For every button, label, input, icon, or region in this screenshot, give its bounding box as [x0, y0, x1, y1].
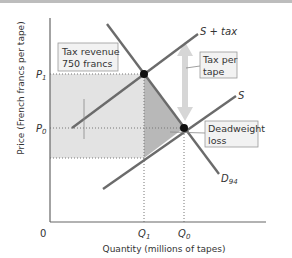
supply-tax-label: S + tax — [200, 26, 237, 37]
tax-revenue-line1: Tax revenue — [61, 46, 120, 57]
tax-revenue-area — [50, 74, 144, 158]
tax-per-tape-arrow — [177, 42, 193, 121]
origin-label: 0 — [40, 228, 46, 239]
y-axis-label: Price (French francs per tape) — [16, 21, 26, 154]
supply-label: S — [238, 90, 245, 101]
taxed-equilibrium-point — [140, 70, 148, 78]
p1-label: P1 — [36, 69, 47, 82]
original-equilibrium-point — [180, 124, 188, 132]
deadweight-line1: Deadweight — [208, 123, 265, 134]
demand-label: D94 — [221, 173, 238, 186]
p0-label: P0 — [36, 123, 47, 136]
q0-label: Q0 — [178, 228, 191, 241]
tax-per-tape-line1: Tax per — [202, 54, 238, 65]
q1-label: Q1 — [138, 228, 150, 241]
tax-revenue-line2: 750 francs — [62, 58, 112, 69]
x-axis-label: Quantity (millions of tapes) — [103, 244, 226, 254]
tax-per-tape-line2: tape — [203, 66, 225, 77]
tax-deadweight-diagram: Tax revenue 750 francs Tax per tape Dead… — [0, 0, 292, 258]
deadweight-line2: loss — [208, 135, 226, 146]
